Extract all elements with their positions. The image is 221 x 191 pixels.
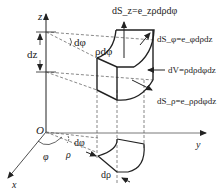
base-projection xyxy=(98,139,144,172)
dphi-bottom-arc xyxy=(67,136,69,143)
phi-label: φ xyxy=(43,151,49,162)
z-axis-label: z xyxy=(37,10,43,22)
dSz-annotation: dS_z=e_zρdρdφ xyxy=(112,5,177,16)
dphi-bottom-label: dφ xyxy=(74,137,85,148)
volume-element xyxy=(97,30,154,100)
dSphi-annotation: dS_φ=e_φdρdz xyxy=(157,34,212,44)
y-axis-label: y xyxy=(195,139,201,150)
x-axis xyxy=(8,132,46,178)
rho-label: ρ xyxy=(65,149,71,160)
drho-arrow-left xyxy=(86,152,96,156)
origin-label: O xyxy=(36,124,44,136)
dphi-top-label: dφ xyxy=(74,36,86,48)
drho-label: dρ xyxy=(101,169,111,180)
dV-annotation: dV=ρdρdφdz xyxy=(168,65,216,75)
rho-dphi-label: ρdφ xyxy=(95,45,112,57)
dSrho-annotation: dS_ρ=e_ρρdφdz xyxy=(157,96,216,106)
dz-label: dz xyxy=(27,48,38,60)
cylindrical-volume-element-diagram: z y x O dz dφ ρdφ φ ρ dφ dρ dS_z=e_zρdρd… xyxy=(0,0,221,191)
drho-arrow-right xyxy=(122,178,130,182)
dphi-top-arc xyxy=(70,38,72,46)
x-axis-label: x xyxy=(11,179,17,190)
phi-arc xyxy=(38,137,62,145)
